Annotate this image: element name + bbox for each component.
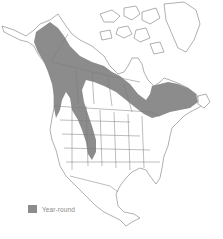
range-map [0, 0, 223, 239]
land-outline [2, 2, 210, 226]
year-round-swatch [28, 205, 37, 213]
legend: Year-round [28, 205, 75, 213]
legend-label-year-round: Year-round [42, 206, 75, 213]
